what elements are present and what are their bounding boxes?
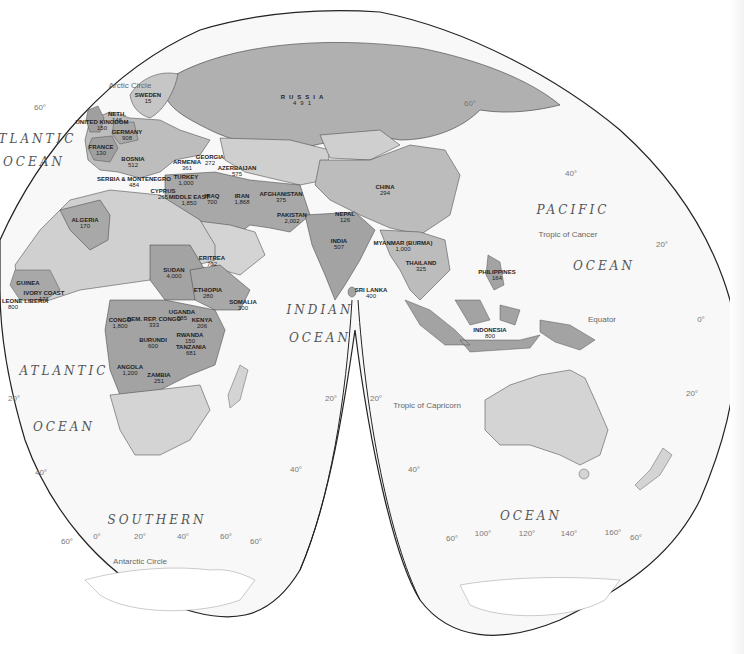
equator-label: Equator <box>588 315 616 324</box>
country-label-kenya: KENYA206 <box>192 317 212 329</box>
country-value: 507 <box>331 244 347 250</box>
country-value: 800 <box>0 304 48 310</box>
country-value: 491 <box>281 100 328 106</box>
ocean-label-atlantic-south-1: ATLANTIC <box>19 364 108 378</box>
degree-label: 60° <box>220 532 232 541</box>
country-label-myanmar-burma-: MYANMAR (BURMA)1,000 <box>374 240 433 252</box>
ocean-label-atlantic-north-1: ATLANTIC <box>0 132 77 146</box>
antarctic-circle-label: Antarctic Circle <box>113 557 167 566</box>
country-label-iraq: IRAQ700 <box>205 193 220 205</box>
ocean-label-southern-2: OCEAN <box>500 509 562 523</box>
country-value: 170 <box>72 223 99 229</box>
tropic-capricorn-label: Tropic of Capricorn <box>393 401 461 410</box>
country-value: 400 <box>355 293 388 299</box>
country-value: 300 <box>229 305 257 311</box>
country-label-thailand: THAILAND325 <box>406 260 437 272</box>
country-value: 512 <box>121 162 144 168</box>
country-label-sudan: SUDAN4,000 <box>163 267 184 279</box>
country-label-serbia-montenegro: SERBIA & MONTENEGRO484 <box>97 176 171 188</box>
country-label-pakistan: PAKISTAN2,002 <box>277 212 307 224</box>
country-value: 280 <box>194 293 222 299</box>
tropic-cancer-label: Tropic of Cancer <box>539 230 598 239</box>
country-label-philippines: PHILIPPINES164 <box>478 269 515 281</box>
degree-label: 60° <box>34 103 46 112</box>
country-name: GUINEA <box>16 280 39 286</box>
country-label-algeria: ALGERIA170 <box>72 217 99 229</box>
country-label-azerbaijan: AZERBAIJAN575 <box>218 165 257 177</box>
country-value: 1,000 <box>174 180 199 186</box>
country-label-guinea: GUINEA <box>16 280 39 286</box>
degree-label: 40° <box>565 169 577 178</box>
country-value: 15 <box>135 98 161 104</box>
ocean-label-pacific-2: OCEAN <box>573 259 635 273</box>
country-value: 130 <box>89 150 114 156</box>
degree-label: 20° <box>656 240 668 249</box>
country-label-ivory-coast: IVORY COAST171 <box>23 290 64 302</box>
country-value: 164 <box>478 275 515 281</box>
degree-label: 40° <box>408 465 420 474</box>
land-tasmania <box>579 469 589 479</box>
degree-label: 40° <box>35 468 47 477</box>
country-label-angola: ANGOLA1,200 <box>117 364 143 376</box>
degree-label: 100° <box>475 529 492 538</box>
degree-label: 60° <box>464 99 476 108</box>
country-label-somalia: SOMALIA300 <box>229 299 257 311</box>
degree-label: 20° <box>134 532 146 541</box>
country-value: 1,200 <box>117 370 143 376</box>
country-value: 171 <box>23 296 64 302</box>
country-value: 702 <box>199 261 225 267</box>
arctic-circle-label: Arctic Circle <box>109 81 152 90</box>
country-value: 294 <box>376 190 395 196</box>
ocean-label-indian-2: OCEAN <box>289 331 351 345</box>
country-value: 1,868 <box>234 199 249 205</box>
country-label-tanzania: TANZANIA681 <box>176 344 206 356</box>
degree-label: 60° <box>630 533 642 542</box>
country-label-india: INDIA507 <box>331 238 347 250</box>
country-label-sweden: SWEDEN15 <box>135 92 161 104</box>
degree-label: 60° <box>446 534 458 543</box>
country-label-indonesia: INDONESIA800 <box>473 327 506 339</box>
country-label-eritrea: ERITREA702 <box>199 255 225 267</box>
degree-label: 40° <box>177 532 189 541</box>
degree-label: 140° <box>561 529 578 538</box>
country-value: 700 <box>205 199 220 205</box>
country-label-germany: GERMANY908 <box>112 129 143 141</box>
page-edge <box>730 0 744 654</box>
country-label-turkey: TURKEY1,000 <box>174 174 199 186</box>
degree-label: 20° <box>325 394 337 403</box>
ocean-label-atlantic-north-2: OCEAN <box>3 155 65 169</box>
country-label-nepal: NEPAL126 <box>335 211 355 223</box>
country-value: 800 <box>473 333 506 339</box>
degree-label: 120° <box>519 529 536 538</box>
ocean-label-southern-1: SOUTHERN <box>108 513 207 527</box>
country-value: 206 <box>192 323 212 329</box>
country-value: 333 <box>127 322 181 328</box>
degree-label: 60° <box>61 537 73 546</box>
country-value: 600 <box>139 343 167 349</box>
degree-label: 60° <box>250 537 262 546</box>
degree-label: 40° <box>290 465 302 474</box>
country-value: 908 <box>112 135 143 141</box>
country-value: 325 <box>406 266 437 272</box>
degree-label: 20° <box>686 389 698 398</box>
country-value: 1,850 <box>169 200 210 206</box>
ocean-label-atlantic-south-2: OCEAN <box>33 420 95 434</box>
country-value: 126 <box>335 217 355 223</box>
country-value: 251 <box>147 378 170 384</box>
country-value: 2,002 <box>277 218 307 224</box>
country-label-ethiopia: ETHIOPIA280 <box>194 287 222 299</box>
country-label-middle-east: MIDDLE EAST1,850 <box>169 194 210 206</box>
country-value: 375 <box>259 197 302 203</box>
country-label-zambia: ZAMBIA251 <box>147 372 170 384</box>
country-label-sri-lanka: SRI LANKA400 <box>355 287 388 299</box>
country-value: 575 <box>218 171 257 177</box>
degree-label: 20° <box>8 394 20 403</box>
degree-label: 160° <box>605 528 622 537</box>
ocean-label-indian-1: INDIAN <box>287 303 354 317</box>
country-label-afghanistan: AFGHANISTAN375 <box>259 191 302 203</box>
land-antarctica-east <box>460 578 620 616</box>
country-label-rwanda: RWANDA150 <box>177 332 204 344</box>
degree-label: 20° <box>370 394 382 403</box>
country-label-burundi: BURUNDI600 <box>139 337 167 349</box>
ocean-label-pacific-1: PACIFIC <box>537 203 610 217</box>
